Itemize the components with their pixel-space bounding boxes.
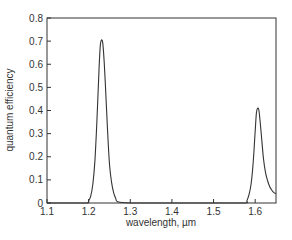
x-tick-label: 1.5 xyxy=(207,206,221,217)
x-axis-ticks: 1.11.21.31.41.51.6 xyxy=(40,199,263,217)
x-tick-label: 1.3 xyxy=(123,206,137,217)
chart: 00.10.20.30.40.50.60.70.8 1.11.21.31.41.… xyxy=(0,0,292,240)
plot-border xyxy=(47,18,276,203)
x-tick-label: 1.6 xyxy=(248,206,262,217)
y-tick-label: 0.8 xyxy=(29,13,43,24)
y-tick-label: 0.1 xyxy=(29,174,43,185)
y-tick-label: 0.6 xyxy=(29,59,43,70)
y-tick-label: 0.4 xyxy=(29,105,43,116)
x-tick-label: 1.4 xyxy=(165,206,179,217)
qe-curve xyxy=(47,40,276,203)
x-tick-label: 1.2 xyxy=(82,206,96,217)
plot-frame xyxy=(47,18,276,203)
y-axis-label: quantum efficiency xyxy=(4,68,15,151)
y-tick-label: 0.2 xyxy=(29,151,43,162)
x-axis-label: wavelength, µm xyxy=(125,217,196,228)
y-tick-label: 0.5 xyxy=(29,82,43,93)
x-tick-label: 1.1 xyxy=(40,206,54,217)
data-series xyxy=(47,40,276,203)
y-axis-ticks: 00.10.20.30.40.50.60.70.8 xyxy=(29,13,51,209)
y-tick-label: 0.7 xyxy=(29,36,43,47)
y-tick-label: 0.3 xyxy=(29,128,43,139)
